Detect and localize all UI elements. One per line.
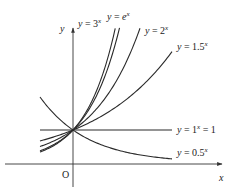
curves-group <box>40 28 172 159</box>
curve-y-2-x <box>40 28 140 146</box>
y-axis-label: y <box>59 23 65 34</box>
origin-label: O <box>62 169 69 180</box>
curve-label: y = ex <box>106 10 131 22</box>
curve-label: y = 1x = 1 <box>176 123 216 135</box>
curve-label: y = 0.5x <box>176 146 209 158</box>
curve-label: y = 1.5x <box>176 40 209 52</box>
curve-label: y = 2x <box>144 24 169 36</box>
curve-y-e-x <box>40 28 120 151</box>
curve-label: y = 3x <box>77 17 102 29</box>
exponential-functions-chart: y = 3xy = exy = 2xy = 1.5xy = 1x = 1y = … <box>0 0 236 187</box>
curve-y-0-5-x <box>40 97 172 159</box>
x-axis-label: x <box>218 172 224 183</box>
curve-labels-group: y = 3xy = exy = 2xy = 1.5xy = 1x = 1y = … <box>77 10 216 158</box>
